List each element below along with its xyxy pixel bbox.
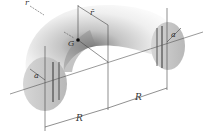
label-r: r (25, 0, 30, 7)
label-R-right: R (134, 92, 142, 102)
label-R-left: R (75, 113, 83, 123)
label-a-right: a (171, 30, 176, 39)
centroid-G-marker (76, 38, 80, 42)
label-G: G (68, 39, 75, 48)
label-a-left: a (34, 71, 39, 80)
half-torus-diagram: r r̄ G a a R R (0, 0, 203, 139)
